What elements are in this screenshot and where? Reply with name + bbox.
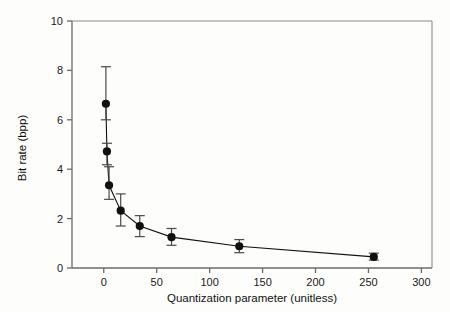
data-series [101, 67, 379, 261]
data-point-marker [102, 100, 110, 108]
data-series-layer [101, 67, 379, 261]
data-point-marker [136, 222, 144, 230]
data-point-marker [167, 233, 175, 241]
y-axis-ticks: 0246810 [51, 15, 72, 274]
x-axis-title: Quantization parameter (unitless) [167, 292, 337, 304]
y-tick-label: 10 [51, 15, 63, 27]
y-tick-label: 0 [57, 262, 63, 274]
data-point-marker [103, 147, 111, 155]
x-tick-label: 100 [200, 276, 218, 288]
y-axis-title: Bit rate (bpp) [16, 115, 28, 182]
x-tick-label: 200 [306, 276, 324, 288]
plot-frame [72, 21, 432, 268]
y-tick-label: 6 [57, 114, 63, 126]
y-tick-label: 4 [57, 163, 63, 175]
data-point-marker [117, 207, 125, 215]
x-axis-ticks: 050100150200250300 [101, 268, 431, 288]
series-line [106, 104, 374, 257]
y-tick-label: 8 [57, 64, 63, 76]
data-point-marker [235, 242, 243, 250]
error-bar [101, 67, 111, 120]
x-tick-label: 250 [359, 276, 377, 288]
data-point-marker [105, 181, 113, 189]
x-tick-label: 50 [151, 276, 163, 288]
x-tick-label: 300 [412, 276, 430, 288]
data-point-marker [370, 253, 378, 261]
y-tick-label: 2 [57, 213, 63, 225]
x-tick-label: 0 [101, 276, 107, 288]
x-tick-label: 150 [253, 276, 271, 288]
chart-figure: 0246810 050100150200250300 Quantization … [0, 0, 450, 312]
bit-rate-vs-quantization-scatter-chart: 0246810 050100150200250300 Quantization … [0, 0, 450, 312]
